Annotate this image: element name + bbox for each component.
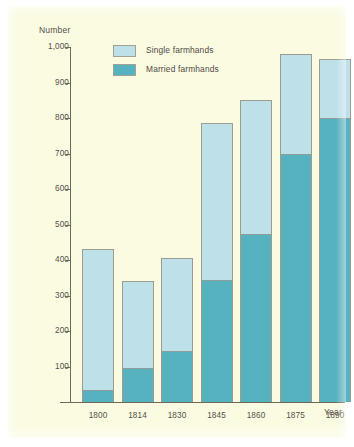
x-tick-label: 1814 [116,411,160,420]
bar-segment-married[interactable] [83,390,113,402]
bar-stack-single[interactable] [319,59,351,402]
bar-stack-single[interactable] [240,100,272,402]
bar-group[interactable] [319,47,351,402]
x-tick-label: 1890 [313,411,354,420]
bar-segment-married[interactable] [123,368,153,402]
bar-group[interactable] [122,47,154,402]
bar-group[interactable] [82,47,114,402]
x-tick-label: 1800 [76,411,120,420]
bar-segment-married[interactable] [162,351,192,402]
x-tick-label: 1830 [155,411,199,420]
bar-stack-single[interactable] [161,258,193,402]
legend-swatch-icon [113,45,136,57]
bar-segment-married[interactable] [241,234,271,402]
bar-stack-single[interactable] [122,281,154,402]
x-tick-label: 1845 [195,411,239,420]
bar-stack-single[interactable] [280,54,312,402]
y-axis-title: Number [39,25,70,35]
bar-stack-single[interactable] [82,249,114,402]
x-tick-label: 1875 [274,411,318,420]
legend-label: Single farmhands [146,45,214,55]
bar-group[interactable] [280,47,312,402]
chart-figure: Number Year 1,00090080070060050040030020… [0,0,354,447]
bar-group[interactable] [201,47,233,402]
bar-segment-married[interactable] [281,154,311,403]
bar-segment-married[interactable] [320,118,350,402]
x-tick-label: 1860 [234,411,278,420]
x-axis-line [60,402,345,403]
legend-label: Married farmhands [146,64,219,74]
plot-area [70,47,345,402]
chart-plate: Number Year 1,00090080070060050040030020… [8,6,346,438]
bar-stack-single[interactable] [201,123,233,402]
bar-segment-married[interactable] [202,280,232,402]
bar-group[interactable] [161,47,193,402]
bar-group[interactable] [240,47,272,402]
legend-swatch-icon [113,64,136,76]
